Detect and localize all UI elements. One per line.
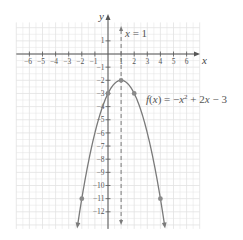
x-tick-label: −5 — [37, 57, 45, 66]
data-point — [158, 196, 163, 201]
data-point — [106, 91, 111, 96]
y-tick-label: −3 — [97, 89, 105, 98]
y-tick-label: −12 — [93, 207, 105, 216]
y-axis-arrow-icon — [106, 14, 111, 20]
plus-two: + 2 — [188, 93, 205, 105]
x-axis-label: x — [201, 54, 207, 66]
x-axis-arrow-icon — [194, 52, 200, 57]
x-tick-label: 2 — [132, 57, 136, 66]
axes — [16, 14, 200, 229]
x-tick-label: 5 — [172, 57, 176, 66]
y-tick-label: 1 — [101, 36, 105, 45]
y-tick-label: −9 — [97, 168, 105, 177]
x-tick-label: 4 — [159, 57, 163, 66]
close-eq: ) = − — [158, 93, 180, 106]
data-point — [119, 78, 124, 83]
y-tick-label: −6 — [97, 129, 105, 138]
minus-three: − 3 — [210, 93, 228, 105]
x-tick-label: 6 — [185, 57, 189, 66]
x-tick-label: −2 — [76, 57, 84, 66]
data-point — [132, 91, 137, 96]
x-tick-label: 3 — [145, 57, 149, 66]
y-tick-label: −10 — [93, 181, 105, 190]
axis-of-symmetry-label: x = 1 — [124, 27, 147, 39]
curve-right-arrow-icon — [162, 222, 167, 228]
y-tick-label: −2 — [97, 76, 105, 85]
symmetry-bottom-arrow-icon — [119, 220, 123, 225]
function-label: f(x) = −x2 + 2x − 3 — [146, 93, 227, 106]
x-tick-label: −4 — [50, 57, 58, 66]
curve-left-arrow-icon — [76, 222, 81, 228]
y-axis-label: y — [98, 10, 104, 22]
eq-one: = 1 — [130, 27, 147, 39]
parabola-chart: −6−5−4−3−2−11234561−1−2−3−4−5−6−7−8−9−10… — [0, 0, 243, 240]
y-tick-label: −11 — [93, 194, 105, 203]
y-tick-label: −7 — [97, 142, 105, 151]
data-point — [79, 196, 84, 201]
y-tick-label: −1 — [97, 63, 105, 72]
y-tick-label: −8 — [97, 155, 105, 164]
symmetry-top-arrow-icon — [119, 26, 123, 31]
x-tick-label: −3 — [63, 57, 71, 66]
x-tick-label: −6 — [24, 57, 32, 66]
